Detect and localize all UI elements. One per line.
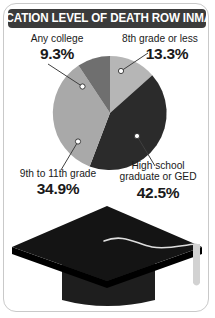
- callout-label-high-school-line1: High school: [108, 160, 208, 171]
- callout-value-high-school: 42.5%: [108, 184, 208, 201]
- callout-eighth-grade: 8th grade or less 13.3%: [110, 33, 210, 63]
- callout-label-high-school-line2: graduate or GED: [108, 171, 208, 182]
- infographic-card: EDUCATION LEVEL OF DEATH ROW INMATES: [0, 0, 215, 318]
- callout-label-eighth-grade: 8th grade or less: [110, 33, 210, 44]
- callout-value-eighth-grade: 13.3%: [124, 45, 210, 62]
- graduation-cap-icon: [12, 206, 202, 306]
- callout-value-any-college: 9.3%: [10, 45, 104, 62]
- chart-stage: Any college 9.3% 8th grade or less 13.3%…: [0, 0, 215, 318]
- callout-any-college: Any college 9.3%: [10, 33, 104, 63]
- marker-dot-high-school: [134, 133, 139, 138]
- marker-dot-ninth-eleventh: [75, 139, 80, 144]
- marker-dot-any-college: [80, 84, 85, 89]
- callout-ninth-eleventh: 9th to 11th grade 34.9%: [6, 168, 110, 198]
- marker-dot-eighth-grade: [118, 68, 123, 73]
- cap-board-top: [12, 206, 202, 281]
- callout-high-school: High school graduate or GED 42.5%: [108, 160, 208, 201]
- callout-label-ninth-eleventh: 9th to 11th grade: [6, 168, 110, 179]
- callout-value-ninth-eleventh: 34.9%: [6, 180, 110, 197]
- tassel: [193, 244, 200, 286]
- callout-label-any-college: Any college: [10, 33, 104, 44]
